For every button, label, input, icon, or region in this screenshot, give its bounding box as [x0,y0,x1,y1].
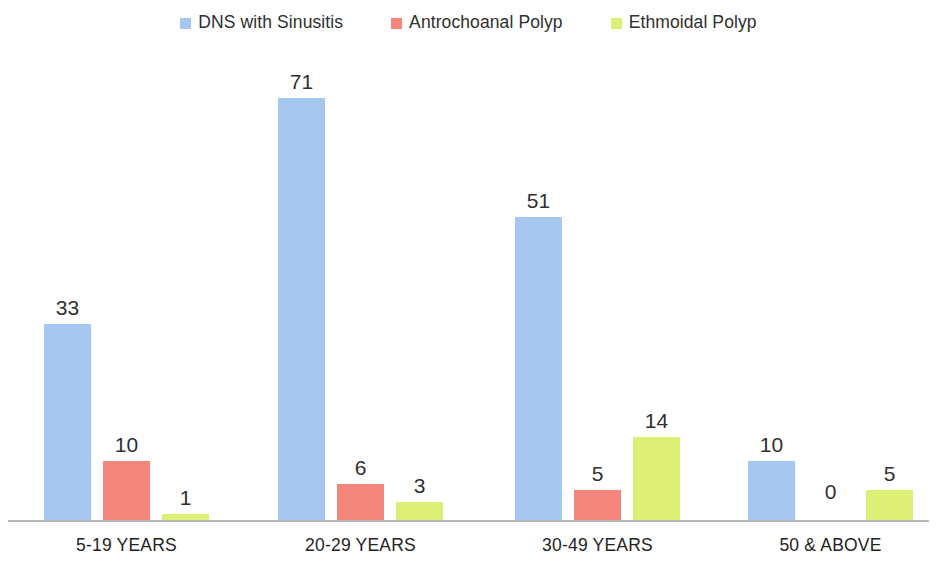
bar-2-series-1[interactable]: 71 [278,98,325,520]
bar-value-label: 14 [645,410,668,431]
bar-2-series-3[interactable]: 3 [396,502,443,520]
plot-area: 331017163515141005 5-19 YEARS20-29 YEARS… [0,0,937,567]
bar-2-series-2[interactable]: 6 [337,484,384,520]
bar-value-label: 71 [290,71,313,92]
bar-value-label: 10 [760,434,783,455]
bar-chart: DNS with Sinusitis Antrochoanal Polyp Et… [0,0,937,567]
category-label-1: 5-19 YEARS [76,537,177,555]
bar-value-label: 6 [355,457,367,478]
bar-value-label: 0 [825,481,837,502]
bar-value-label: 10 [115,434,138,455]
bar-4-series-3[interactable]: 5 [866,490,913,520]
bar-1-series-1[interactable]: 33 [44,324,91,520]
bar-1-series-2[interactable]: 10 [103,461,150,521]
bar-3-series-2[interactable]: 5 [574,490,621,520]
bar-value-label: 5 [884,463,896,484]
bar-value-label: 33 [56,297,79,318]
bar-value-label: 1 [180,487,192,508]
bar-1-series-3[interactable]: 1 [162,514,209,520]
bar-3-series-1[interactable]: 51 [515,217,562,520]
bar-value-label: 51 [527,190,550,211]
bar-value-label: 3 [414,475,426,496]
bar-value-label: 5 [592,463,604,484]
bar-4-series-1[interactable]: 10 [748,461,795,521]
category-label-4: 50 & ABOVE [779,537,881,555]
bar-3-series-3[interactable]: 14 [633,437,680,520]
category-label-3: 30-49 YEARS [542,537,653,555]
x-axis-baseline [8,520,929,522]
category-label-2: 20-29 YEARS [305,537,416,555]
